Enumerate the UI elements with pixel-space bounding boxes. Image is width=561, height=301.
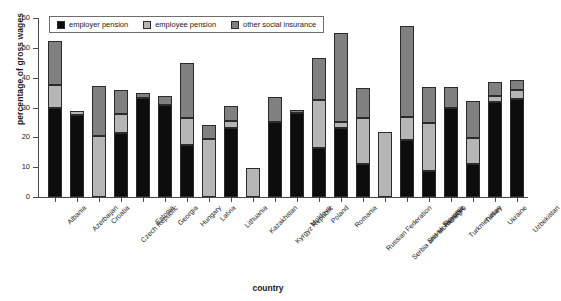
bar-uzbekistan[interactable] xyxy=(510,18,524,197)
bar-segment-employer-pension xyxy=(444,108,458,198)
bar-segment-other-social-insurance xyxy=(466,101,480,138)
bar-turkmenistan[interactable] xyxy=(444,18,458,197)
bar-segment-employee-pension xyxy=(466,138,480,164)
x-axis-tick xyxy=(319,198,320,202)
legend-label-other-social-insurance: other social insurance xyxy=(243,20,316,29)
x-axis-tick xyxy=(77,198,78,202)
x-axis-tick xyxy=(517,198,518,202)
legend-swatch-icon-other-social-insurance xyxy=(231,21,239,29)
bar-poland[interactable] xyxy=(312,18,326,197)
bar-czech-republic[interactable] xyxy=(114,18,128,197)
bar-segment-other-social-insurance xyxy=(312,58,326,100)
bar-kyrgyz-republic[interactable] xyxy=(268,18,282,197)
y-axis-line xyxy=(38,18,39,197)
x-axis-label-lithuania: Lithuania xyxy=(243,204,268,229)
bar-segment-employer-pension xyxy=(312,148,326,197)
bar-segment-other-social-insurance xyxy=(268,97,282,121)
bar-slovak-republic[interactable] xyxy=(400,18,414,197)
bar-segment-other-social-insurance xyxy=(202,125,216,139)
x-axis-label-georgia: Georgia xyxy=(176,204,199,227)
bar-segment-employee-pension xyxy=(48,85,62,108)
bar-georgia[interactable] xyxy=(158,18,172,197)
bar-segment-employer-pension xyxy=(334,128,348,197)
bar-croatia[interactable] xyxy=(92,18,106,197)
bar-segment-other-social-insurance xyxy=(422,87,436,123)
legend-item-other-social-insurance: other social insurance xyxy=(231,20,316,29)
bar-segment-employee-pension xyxy=(312,100,326,148)
bar-serbia-and-montenegro[interactable] xyxy=(378,18,392,197)
x-axis-tick xyxy=(55,198,56,202)
x-axis-label-ukraine: Ukraine xyxy=(506,204,528,226)
bar-segment-other-social-insurance xyxy=(224,106,238,122)
y-axis-tick: 40 xyxy=(33,78,38,79)
bar-segment-other-social-insurance xyxy=(136,93,150,98)
bar-hungary[interactable] xyxy=(180,18,194,197)
bar-segment-employer-pension xyxy=(290,113,304,197)
bar-segment-other-social-insurance xyxy=(488,82,502,96)
bar-segment-other-social-insurance xyxy=(444,87,458,108)
x-axis-tick xyxy=(341,198,342,202)
x-axis-tick xyxy=(451,198,452,202)
x-axis-tick xyxy=(495,198,496,202)
y-axis-tick: 10 xyxy=(33,167,38,168)
bar-russian-federation[interactable] xyxy=(356,18,370,197)
bar-segment-employer-pension xyxy=(180,145,194,198)
bar-segment-other-social-insurance xyxy=(356,88,370,118)
legend-swatch-icon-employee-pension xyxy=(143,21,151,29)
y-axis-tick: 0 xyxy=(33,197,38,198)
x-axis-tick xyxy=(385,198,386,202)
x-axis-tick xyxy=(99,198,100,202)
y-axis-tick-label: 30 xyxy=(22,103,30,112)
legend-swatch-icon-employer-pension xyxy=(57,21,65,29)
bar-latvia[interactable] xyxy=(202,18,216,197)
bar-segment-other-social-insurance xyxy=(510,80,524,90)
bar-lithuania[interactable] xyxy=(224,18,238,197)
bar-segment-other-social-insurance xyxy=(48,41,62,85)
bar-segment-employee-pension xyxy=(114,114,128,133)
bar-segment-employee-pension xyxy=(224,121,238,128)
bar-turkey[interactable] xyxy=(466,18,480,197)
bar-segment-other-social-insurance xyxy=(158,96,172,106)
x-axis-tick xyxy=(143,198,144,202)
x-axis-tick xyxy=(407,198,408,202)
bar-segment-employee-pension xyxy=(334,122,348,128)
x-axis-tick xyxy=(429,198,430,202)
bar-segment-employee-pension xyxy=(400,117,414,140)
y-axis-tick: 50 xyxy=(33,48,38,49)
bar-moldova[interactable] xyxy=(290,18,304,197)
bar-romania[interactable] xyxy=(334,18,348,197)
y-axis-tick: 30 xyxy=(33,108,38,109)
legend-item-employer-pension: employer pension xyxy=(57,20,128,29)
bar-segment-other-social-insurance xyxy=(334,33,348,122)
bar-segment-employer-pension xyxy=(422,171,436,197)
bar-segment-employer-pension xyxy=(48,108,62,197)
bar-estonia[interactable] xyxy=(136,18,150,197)
x-axis-tick xyxy=(165,198,166,202)
bar-kazakhstan[interactable] xyxy=(246,18,260,197)
bar-segment-employee-pension xyxy=(92,136,106,197)
y-axis-tick-label: 50 xyxy=(22,43,30,52)
bar-segment-other-social-insurance xyxy=(92,86,106,137)
bar-segment-employer-pension xyxy=(224,128,238,197)
x-axis-label-albania: Albania xyxy=(66,204,87,225)
bar-azerbaijan[interactable] xyxy=(70,18,84,197)
x-axis-tick xyxy=(187,198,188,202)
bar-segment-employer-pension xyxy=(158,105,172,197)
y-axis-tick: 60 xyxy=(33,18,38,19)
x-axis-tick xyxy=(275,198,276,202)
bar-segment-employee-pension xyxy=(488,96,502,102)
legend-label-employer-pension: employer pension xyxy=(69,20,128,29)
x-axis-tick xyxy=(253,198,254,202)
legend-item-employee-pension: employee pension xyxy=(143,20,216,29)
bar-albania[interactable] xyxy=(48,18,62,197)
bar-segment-employer-pension xyxy=(400,140,414,197)
x-axis-tick xyxy=(297,198,298,202)
y-axis-tick-label: 10 xyxy=(22,162,30,171)
bar-segment-employee-pension xyxy=(202,139,216,197)
bar-slovenia[interactable] xyxy=(422,18,436,197)
x-axis-tick xyxy=(473,198,474,202)
bar-ukraine[interactable] xyxy=(488,18,502,197)
bar-segment-employer-pension xyxy=(510,99,524,197)
bar-segment-employer-pension xyxy=(136,98,150,197)
chart-legend: employer pension employee pension other … xyxy=(49,16,324,33)
